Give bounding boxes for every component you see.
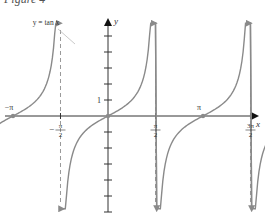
zero-label: π bbox=[197, 103, 201, 112]
zero-point bbox=[11, 114, 15, 118]
zero-label: −π bbox=[5, 103, 14, 112]
function-label: y = tan x bbox=[33, 18, 60, 27]
x-tick-denominator: 2 bbox=[249, 131, 253, 139]
x-tick-numerator: π bbox=[59, 122, 63, 130]
y-axis-label: y bbox=[113, 16, 118, 26]
zero-point bbox=[106, 114, 110, 118]
x-tick-sign: − bbox=[49, 124, 54, 134]
x-tick-numerator: π bbox=[154, 122, 158, 130]
tan-branch bbox=[249, 23, 265, 209]
x-tick-numerator: 3π bbox=[247, 122, 255, 130]
x-axis-label: x bbox=[255, 119, 260, 129]
x-tick-denominator: 2 bbox=[154, 131, 158, 139]
tan-chart: −3π2−π2π23π25π2−ππ2π1xyy = tan x bbox=[0, 0, 265, 214]
asymptotes bbox=[0, 30, 265, 205]
zero-point bbox=[201, 114, 205, 118]
label-pointer bbox=[58, 29, 75, 44]
x-tick-denominator: 2 bbox=[59, 131, 63, 139]
axis-labels: −3π2−π2π23π25π2−ππ2π1xyy = tan x bbox=[0, 16, 265, 139]
axes bbox=[0, 22, 265, 212]
y-tick-label: 1 bbox=[97, 96, 101, 105]
